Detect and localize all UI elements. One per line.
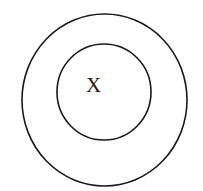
concentric-circles-diagram: X <box>0 0 203 191</box>
inner-circle <box>57 44 151 140</box>
outer-circle <box>22 14 187 186</box>
label-x: X <box>86 73 101 97</box>
